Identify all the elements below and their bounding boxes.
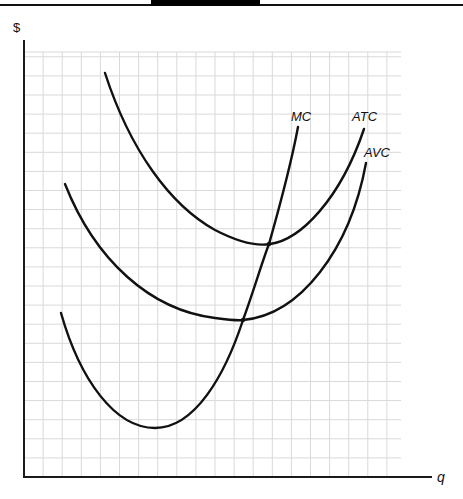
cost-curves-chart: $ q MC ATC AVC [0,0,463,499]
mc-atc-intersection [267,242,271,246]
header-tab [151,0,260,6]
mc-label: MC [291,109,312,124]
chart-grid [24,52,401,477]
atc-label: ATC [351,109,378,124]
mc-avc-intersection [241,318,245,322]
y-axis-label: $ [13,20,21,35]
x-axis-label: q [437,469,445,485]
mc-curve [61,127,298,428]
avc-label: AVC [363,145,391,160]
